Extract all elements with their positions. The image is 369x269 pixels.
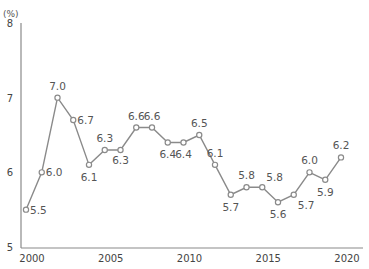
- data-labels: 5.56.07.06.76.16.36.36.66.66.46.46.56.15…: [30, 80, 349, 221]
- y-tick-label: 8: [7, 18, 13, 29]
- data-point-marker: [275, 200, 280, 205]
- y-tick-label: 5: [7, 242, 13, 253]
- data-label: 6.3: [96, 132, 113, 144]
- x-tick-label: 2020: [334, 253, 359, 264]
- data-point-marker: [39, 170, 44, 175]
- data-label: 6.2: [333, 139, 350, 151]
- data-label: 6.0: [46, 166, 63, 178]
- x-axis-ticks: 20002005201020152020: [19, 253, 359, 264]
- y-tick-label: 6: [7, 167, 13, 178]
- data-label: 6.6: [128, 110, 145, 122]
- data-point-marker: [212, 162, 217, 167]
- data-label: 6.7: [77, 114, 94, 126]
- data-point-marker: [71, 117, 76, 122]
- data-label: 5.6: [270, 208, 287, 220]
- x-tick-label: 2015: [256, 253, 281, 264]
- data-point-marker: [118, 147, 123, 152]
- data-label: 6.4: [175, 148, 192, 160]
- data-label: 7.0: [49, 80, 66, 92]
- x-tick-label: 2005: [98, 253, 123, 264]
- data-point-marker: [323, 177, 328, 182]
- data-point-marker: [338, 155, 343, 160]
- data-point-marker: [197, 132, 202, 137]
- data-point-marker: [23, 207, 28, 212]
- data-point-marker: [181, 140, 186, 145]
- data-point-marker: [165, 140, 170, 145]
- y-tick-label: 7: [7, 93, 13, 104]
- x-tick-label: 2010: [177, 253, 202, 264]
- data-label: 5.9: [317, 186, 334, 198]
- data-point-marker: [55, 95, 60, 100]
- data-point-marker: [86, 162, 91, 167]
- data-label: 6.5: [191, 117, 208, 129]
- line-chart: 5678 20002005201020152020 5.56.07.06.76.…: [0, 0, 369, 269]
- data-point-marker: [260, 185, 265, 190]
- data-label: 6.1: [81, 171, 98, 183]
- data-point-marker: [134, 125, 139, 130]
- data-label: 5.8: [266, 171, 283, 183]
- data-point-marker: [102, 147, 107, 152]
- data-point-marker: [244, 185, 249, 190]
- y-axis-ticks: 5678: [7, 18, 13, 253]
- data-label: 5.7: [222, 201, 239, 213]
- data-label: 6.6: [144, 110, 161, 122]
- data-point-marker: [149, 125, 154, 130]
- data-point-marker: [307, 170, 312, 175]
- data-label: 6.1: [207, 147, 224, 159]
- data-label: 5.8: [238, 169, 255, 181]
- chart-axes: [21, 23, 363, 248]
- data-label: 6.4: [159, 148, 176, 160]
- x-tick-label: 2000: [19, 253, 44, 264]
- data-label: 5.5: [30, 204, 47, 216]
- data-label: 5.7: [298, 199, 315, 211]
- data-label: 6.3: [112, 154, 129, 166]
- data-label: 6.0: [301, 154, 318, 166]
- data-point-marker: [291, 192, 296, 197]
- data-point-marker: [228, 192, 233, 197]
